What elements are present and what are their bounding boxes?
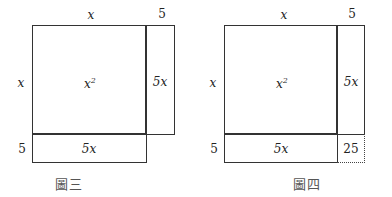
left-x-label: x [18, 77, 25, 89]
bottom-rect-label: 5x [274, 143, 288, 155]
square-label: x2 [84, 75, 96, 90]
top-x-label: x [88, 9, 95, 21]
left-x-label: x [210, 77, 217, 89]
top-5-label: 5 [158, 8, 166, 20]
square-label: x2 [276, 75, 288, 90]
right-rect-label: 5x [153, 76, 167, 88]
figure-4: x 5 x 5 x2 5x 5x 25 圖四 [196, 0, 392, 197]
top-x-label: x [281, 9, 288, 21]
figure-3: x 5 x 5 x2 5x 5x 圖三 [0, 0, 196, 197]
figure-caption: 圖四 [293, 174, 321, 193]
left-5-label: 5 [210, 143, 218, 155]
corner-label: 25 [343, 143, 358, 155]
bottom-rect-label: 5x [82, 143, 96, 155]
figure-caption: 圖三 [55, 174, 83, 193]
top-5-label: 5 [348, 8, 356, 20]
left-5-label: 5 [18, 143, 26, 155]
right-rect-label: 5x [344, 76, 358, 88]
